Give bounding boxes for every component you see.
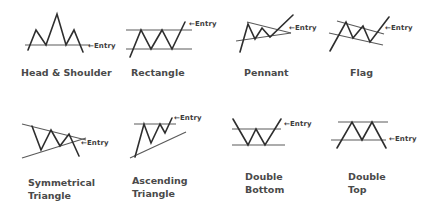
ascending-triangle-figure [130, 118, 186, 158]
label-pennant: Pennant [244, 66, 289, 79]
pennant-figure [236, 15, 293, 52]
label-line-2: Bottom [245, 183, 284, 196]
label-symmetrical-triangle: Symmetrical Triangle [28, 176, 95, 202]
head-and-shoulder-figure [25, 14, 90, 52]
label-line-1: Symmetrical [28, 176, 95, 189]
entry-marker-pennant: ←Entry [289, 24, 317, 32]
entry-marker-head-and-shoulder: ←Entry [88, 42, 116, 50]
double-top-figure [331, 122, 388, 148]
entry-marker-flag: ←Entry [385, 24, 413, 32]
label-ascending-triangle: Ascending Triangle [132, 174, 187, 200]
entry-marker-rectangle: ←Entry [189, 20, 217, 28]
label-line-1: Double [245, 170, 284, 183]
label-rectangle: Rectangle [131, 66, 185, 79]
entry-marker-double-top: ←Entry [389, 135, 417, 143]
entry-marker-ascending-triangle: ←Entry [174, 114, 202, 122]
entry-marker-double-bottom: ←Entry [284, 120, 312, 128]
label-line-1: Flag [350, 66, 373, 79]
label-line-1: Rectangle [131, 66, 185, 79]
label-line-1: Pennant [244, 66, 289, 79]
double-bottom-figure [232, 119, 285, 145]
rectangle-figure [126, 22, 192, 57]
label-line-1: Double [348, 170, 386, 183]
symmetrical-triangle-figure [22, 124, 86, 158]
label-line-2: Triangle [132, 187, 187, 200]
label-head-and-shoulder: Head & Shoulder [21, 66, 112, 79]
label-line-2: Top [348, 183, 386, 196]
entry-marker-symmetrical-triangle: ←Entry [81, 139, 109, 147]
label-double-bottom: Double Bottom [245, 170, 284, 196]
label-line-1: Head & Shoulder [21, 66, 112, 79]
label-flag: Flag [350, 66, 373, 79]
label-double-top: Double Top [348, 170, 386, 196]
label-line-2: Triangle [28, 189, 95, 202]
flag-figure [329, 17, 389, 51]
label-line-1: Ascending [132, 174, 187, 187]
